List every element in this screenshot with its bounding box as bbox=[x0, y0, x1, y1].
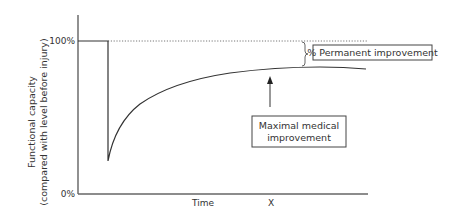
y-axis-title-line1: Functional capacity bbox=[26, 76, 37, 168]
y-tick-100: 100% bbox=[49, 36, 75, 46]
permanent-improvement-label: % Permanent improvement bbox=[307, 47, 438, 58]
y-axis-title: Functional capacity (compared with level… bbox=[26, 38, 49, 205]
functional-capacity-diagram: 100% 0% Functional capacity (compared wi… bbox=[0, 0, 451, 222]
x-label-time: Time bbox=[191, 198, 214, 208]
mmi-label-line1: Maximal medical bbox=[259, 120, 339, 131]
y-tick-0: 0% bbox=[61, 189, 76, 199]
mmi-label-line2: improvement bbox=[267, 132, 331, 143]
x-label-marker: X bbox=[268, 198, 274, 208]
y-axis-title-line2: (compared with level before injury) bbox=[38, 38, 49, 205]
arrow-up-icon bbox=[267, 76, 273, 84]
